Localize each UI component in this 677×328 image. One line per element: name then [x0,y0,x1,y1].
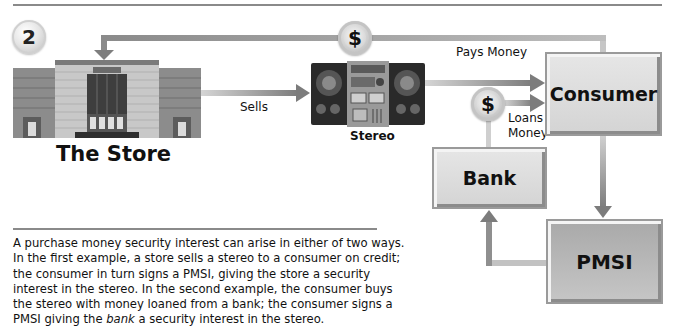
loans-money-label: Loans Money [508,111,548,141]
dollar-symbol: $ [344,27,366,49]
bank-box: Bank [432,147,547,209]
store-building-icon [13,60,201,140]
consumer-label: Consumer [550,83,657,105]
caption-part2: a security interest in the stereo. [135,312,325,326]
consumer-to-pmsi-arrow [594,136,612,218]
dollar-symbol: $ [477,93,499,115]
bank-label: Bank [463,167,516,189]
pmsi-label: PMSI [576,250,632,274]
step-number-badge: 2 [12,20,46,54]
pmsi-to-bank-arrow [480,210,547,266]
store-label: The Store [56,142,171,166]
stereo-boombox-icon [311,61,425,127]
dollar-coin-icon: $ [338,21,372,55]
caption-text: A purchase money security interest can a… [13,236,413,328]
pmsi-box: PMSI [546,219,663,304]
caption-emphasis: bank [106,312,135,326]
stereo-label: Stereo [350,129,395,143]
pays-money-label: Pays Money [456,45,527,59]
consumer-box: Consumer [545,52,662,136]
caption-rule [13,228,377,230]
loans-label-line1: Loans [508,111,548,126]
sells-label: Sells [240,100,268,114]
dollar-coin-icon: $ [471,87,505,121]
loans-label-line2: Money [508,126,548,141]
